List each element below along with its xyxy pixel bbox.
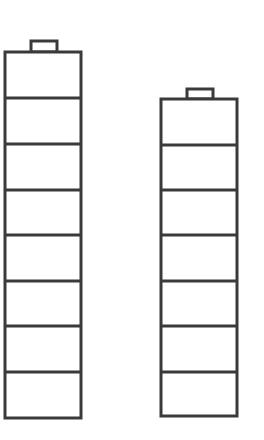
left-stack <box>5 41 81 418</box>
left-stack-cap <box>31 41 57 52</box>
battery-stacks-diagram <box>0 0 264 440</box>
right-stack-body <box>161 99 237 416</box>
right-stack <box>161 89 237 416</box>
